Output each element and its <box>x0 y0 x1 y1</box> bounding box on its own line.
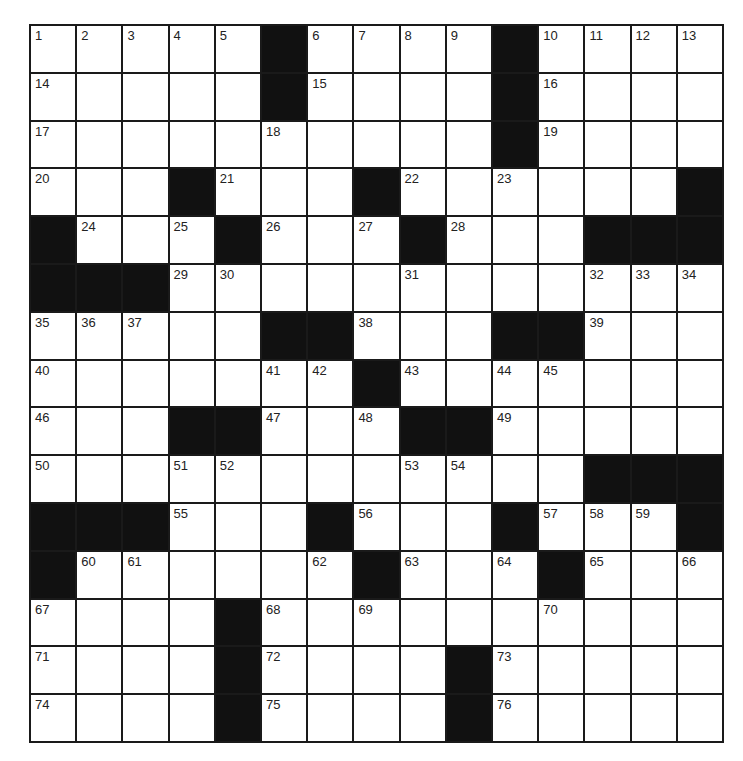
grid-cell[interactable] <box>170 313 214 359</box>
grid-cell[interactable]: 9 <box>447 26 491 72</box>
grid-cell[interactable]: 53 <box>401 456 445 502</box>
grid-cell[interactable] <box>539 265 583 311</box>
grid-cell[interactable] <box>401 695 445 741</box>
grid-cell[interactable]: 57 <box>539 504 583 550</box>
grid-cell[interactable] <box>539 217 583 263</box>
grid-cell[interactable] <box>539 647 583 693</box>
grid-cell[interactable] <box>123 647 167 693</box>
grid-cell[interactable] <box>262 504 306 550</box>
grid-cell[interactable] <box>216 552 260 598</box>
grid-cell[interactable] <box>77 408 121 454</box>
grid-cell[interactable] <box>678 313 722 359</box>
grid-cell[interactable] <box>262 265 306 311</box>
grid-cell[interactable] <box>493 217 537 263</box>
grid-cell[interactable]: 62 <box>308 552 352 598</box>
grid-cell[interactable] <box>678 600 722 646</box>
grid-cell[interactable]: 43 <box>401 361 445 407</box>
grid-cell[interactable]: 37 <box>123 313 167 359</box>
grid-cell[interactable] <box>308 122 352 168</box>
grid-cell[interactable]: 65 <box>585 552 629 598</box>
grid-cell[interactable] <box>170 600 214 646</box>
grid-cell[interactable] <box>401 647 445 693</box>
grid-cell[interactable] <box>308 217 352 263</box>
grid-cell[interactable]: 18 <box>262 122 306 168</box>
grid-cell[interactable]: 6 <box>308 26 352 72</box>
grid-cell[interactable]: 48 <box>354 408 398 454</box>
grid-cell[interactable] <box>539 456 583 502</box>
grid-cell[interactable] <box>170 695 214 741</box>
grid-cell[interactable] <box>585 122 629 168</box>
grid-cell[interactable] <box>447 313 491 359</box>
grid-cell[interactable] <box>123 361 167 407</box>
grid-cell[interactable]: 14 <box>31 74 75 120</box>
grid-cell[interactable] <box>123 408 167 454</box>
grid-cell[interactable]: 67 <box>31 600 75 646</box>
grid-cell[interactable] <box>678 647 722 693</box>
grid-cell[interactable] <box>632 600 676 646</box>
grid-cell[interactable]: 71 <box>31 647 75 693</box>
grid-cell[interactable]: 63 <box>401 552 445 598</box>
grid-cell[interactable] <box>539 695 583 741</box>
grid-cell[interactable]: 60 <box>77 552 121 598</box>
grid-cell[interactable]: 20 <box>31 169 75 215</box>
grid-cell[interactable] <box>354 695 398 741</box>
grid-cell[interactable] <box>308 169 352 215</box>
grid-cell[interactable] <box>585 600 629 646</box>
grid-cell[interactable] <box>632 122 676 168</box>
grid-cell[interactable]: 1 <box>31 26 75 72</box>
grid-cell[interactable]: 28 <box>447 217 491 263</box>
grid-cell[interactable]: 3 <box>123 26 167 72</box>
grid-cell[interactable]: 64 <box>493 552 537 598</box>
grid-cell[interactable] <box>447 265 491 311</box>
grid-cell[interactable] <box>308 695 352 741</box>
grid-cell[interactable]: 13 <box>678 26 722 72</box>
grid-cell[interactable]: 46 <box>31 408 75 454</box>
grid-cell[interactable] <box>354 74 398 120</box>
grid-cell[interactable]: 56 <box>354 504 398 550</box>
grid-cell[interactable] <box>354 456 398 502</box>
grid-cell[interactable]: 25 <box>170 217 214 263</box>
grid-cell[interactable]: 70 <box>539 600 583 646</box>
grid-cell[interactable] <box>539 408 583 454</box>
grid-cell[interactable] <box>401 74 445 120</box>
grid-cell[interactable]: 19 <box>539 122 583 168</box>
grid-cell[interactable]: 33 <box>632 265 676 311</box>
grid-cell[interactable] <box>632 408 676 454</box>
grid-cell[interactable]: 44 <box>493 361 537 407</box>
grid-cell[interactable]: 12 <box>632 26 676 72</box>
grid-cell[interactable]: 15 <box>308 74 352 120</box>
grid-cell[interactable]: 26 <box>262 217 306 263</box>
grid-cell[interactable]: 8 <box>401 26 445 72</box>
grid-cell[interactable] <box>170 647 214 693</box>
grid-cell[interactable] <box>585 408 629 454</box>
grid-cell[interactable] <box>77 647 121 693</box>
grid-cell[interactable] <box>447 169 491 215</box>
grid-cell[interactable]: 47 <box>262 408 306 454</box>
grid-cell[interactable] <box>123 695 167 741</box>
grid-cell[interactable] <box>123 217 167 263</box>
grid-cell[interactable] <box>585 647 629 693</box>
grid-cell[interactable]: 38 <box>354 313 398 359</box>
grid-cell[interactable] <box>632 313 676 359</box>
grid-cell[interactable]: 76 <box>493 695 537 741</box>
grid-cell[interactable]: 4 <box>170 26 214 72</box>
grid-cell[interactable]: 35 <box>31 313 75 359</box>
grid-cell[interactable] <box>308 456 352 502</box>
grid-cell[interactable] <box>632 361 676 407</box>
grid-cell[interactable] <box>354 647 398 693</box>
grid-cell[interactable] <box>447 74 491 120</box>
grid-cell[interactable] <box>308 647 352 693</box>
grid-cell[interactable]: 36 <box>77 313 121 359</box>
grid-cell[interactable]: 41 <box>262 361 306 407</box>
grid-cell[interactable] <box>585 695 629 741</box>
grid-cell[interactable] <box>585 74 629 120</box>
grid-cell[interactable] <box>678 695 722 741</box>
grid-cell[interactable]: 61 <box>123 552 167 598</box>
grid-cell[interactable] <box>123 600 167 646</box>
grid-cell[interactable] <box>123 456 167 502</box>
grid-cell[interactable]: 66 <box>678 552 722 598</box>
grid-cell[interactable]: 24 <box>77 217 121 263</box>
grid-cell[interactable]: 23 <box>493 169 537 215</box>
grid-cell[interactable]: 74 <box>31 695 75 741</box>
grid-cell[interactable] <box>354 265 398 311</box>
